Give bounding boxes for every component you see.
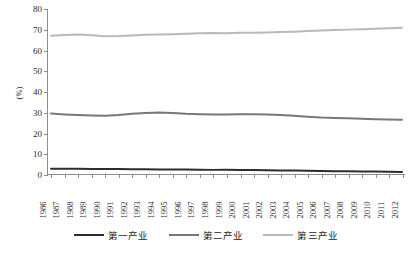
x-tick-label: 2008 <box>336 201 345 218</box>
series-line <box>51 113 402 120</box>
series-line <box>51 169 402 172</box>
x-tick-label: 1999 <box>214 201 223 218</box>
y-tick-label: 10 <box>20 150 42 159</box>
legend-item[interactable]: 第一产业 <box>74 228 149 242</box>
x-axis-tick-labels: 1986198719881989199019911992199319941995… <box>47 176 405 218</box>
y-tick-mark <box>44 71 48 72</box>
legend-item[interactable]: 第三产业 <box>263 228 338 242</box>
y-tick-label: 80 <box>20 5 42 14</box>
y-tick-label: 70 <box>20 25 42 34</box>
legend-line-swatch <box>263 234 293 236</box>
y-tick-label: 50 <box>20 67 42 76</box>
legend-line-swatch <box>74 234 104 236</box>
x-tick-label: 1987 <box>52 201 61 218</box>
series-lines <box>48 9 405 174</box>
x-tick-label: 1989 <box>79 201 88 218</box>
x-tick-label: 1988 <box>65 201 74 218</box>
x-tick-label: 2001 <box>241 201 250 218</box>
y-tick-mark <box>44 51 48 52</box>
x-tick-label: 2005 <box>295 201 304 218</box>
x-tick-label: 1992 <box>119 201 128 218</box>
y-tick-label: 0 <box>20 171 42 180</box>
x-tick-label: 1995 <box>160 201 169 218</box>
line-chart: (%) 80706050403020100 198619871988198919… <box>0 0 412 255</box>
y-tick-label: 60 <box>20 46 42 55</box>
x-tick-label: 1986 <box>38 201 47 218</box>
x-tick-label: 2006 <box>309 201 318 218</box>
plot-area <box>47 9 405 175</box>
x-tick-label: 1997 <box>187 201 196 218</box>
y-tick-mark <box>44 92 48 93</box>
x-tick-label: 1990 <box>92 201 101 218</box>
x-tick-label: 2003 <box>268 201 277 218</box>
x-tick-label: 2010 <box>363 201 372 218</box>
x-tick-label: 2007 <box>322 201 331 218</box>
legend-label: 第三产业 <box>297 228 338 242</box>
x-tick-label: 1994 <box>146 201 155 218</box>
y-tick-mark <box>44 9 48 10</box>
x-tick-label: 2004 <box>282 201 291 218</box>
x-tick-label: 2009 <box>349 201 358 218</box>
y-tick-mark <box>44 134 48 135</box>
x-tick-label: 2012 <box>390 201 399 218</box>
chart-legend: 第一产业第二产业第三产业 <box>0 228 412 242</box>
legend-item[interactable]: 第二产业 <box>169 228 244 242</box>
x-tick-label: 1998 <box>200 201 209 218</box>
y-tick-mark <box>44 113 48 114</box>
legend-label: 第一产业 <box>108 228 149 242</box>
y-tick-label: 20 <box>20 129 42 138</box>
x-tick-label: 1991 <box>106 201 115 218</box>
y-tick-mark <box>44 154 48 155</box>
x-tick-label: 2000 <box>228 201 237 218</box>
y-tick-label: 40 <box>20 88 42 97</box>
x-tick-label: 1993 <box>133 201 142 218</box>
y-tick-label: 30 <box>20 108 42 117</box>
legend-line-swatch <box>169 234 199 236</box>
x-tick-label: 1996 <box>173 201 182 218</box>
y-tick-mark <box>44 30 48 31</box>
x-tick-label: 2011 <box>376 201 385 218</box>
x-tick-label: 2002 <box>255 201 264 218</box>
series-line <box>51 28 402 36</box>
legend-label: 第二产业 <box>203 228 244 242</box>
